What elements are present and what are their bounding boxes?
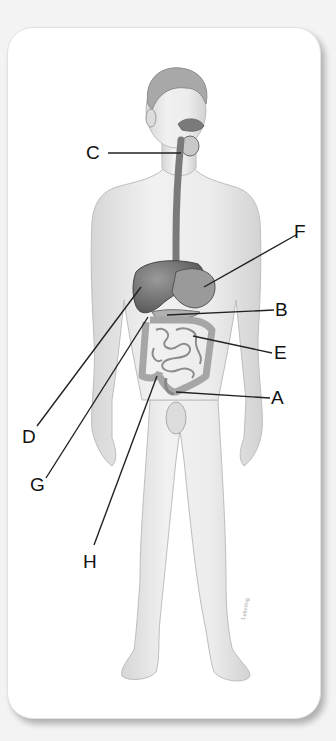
label-c: C — [86, 143, 100, 162]
leader-line-d — [37, 287, 141, 426]
label-f: F — [294, 222, 306, 241]
label-h: H — [83, 552, 97, 571]
label-g: G — [30, 475, 45, 494]
human-body-illustration: Lettering — [0, 0, 336, 741]
ear — [146, 109, 156, 127]
label-e: E — [274, 343, 287, 362]
pelvic-shading — [166, 402, 186, 434]
artist-signature: Lettering — [240, 597, 250, 620]
label-b: B — [275, 300, 288, 319]
label-d: D — [22, 427, 36, 446]
label-a: A — [271, 388, 284, 407]
